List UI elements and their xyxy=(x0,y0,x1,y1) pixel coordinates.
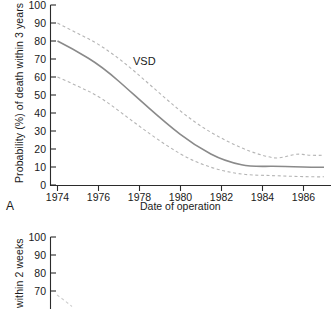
panel-b: 100 90 80 70 within 2 weeks xyxy=(0,232,333,309)
series-lower-ci-line xyxy=(58,77,325,177)
y-tick-label: 40 xyxy=(34,107,46,119)
y-tick-label: 20 xyxy=(34,143,46,155)
y-tick-label: 0 xyxy=(40,179,46,191)
x-axis-label-a: Date of operation xyxy=(140,200,221,212)
y-axis-label-a: Probability (%) of death within 3 years xyxy=(13,3,25,183)
y-axis-label-b: within 2 weeks xyxy=(13,238,25,308)
panel-a: 100 90 80 70 60 50 40 30 20 10 0 xyxy=(0,0,333,228)
y-tick-label: 100 xyxy=(28,232,46,243)
x-tick-label: 1976 xyxy=(87,191,111,203)
y-tick-label: 60 xyxy=(34,71,46,83)
series-annotation-vsd: VSD xyxy=(133,55,156,67)
series-main-line xyxy=(58,41,325,167)
data-series-group-a xyxy=(58,23,325,177)
data-series-group-b xyxy=(57,295,72,307)
y-tick-label: 10 xyxy=(34,161,46,173)
figure-container: 100 90 80 70 60 50 40 30 20 10 0 xyxy=(0,0,333,309)
y-tick-label: 80 xyxy=(34,267,46,279)
series-upper-ci-line xyxy=(58,23,325,158)
x-tick-label: 1974 xyxy=(46,191,70,203)
x-tick-label: 1984 xyxy=(251,191,275,203)
y-tick-label: 50 xyxy=(34,89,46,101)
y-tick-label: 70 xyxy=(34,285,46,297)
y-tick-label: 90 xyxy=(34,17,46,29)
y-tick-label: 30 xyxy=(34,125,46,137)
y-tick-label: 80 xyxy=(34,35,46,47)
y-ticks-a xyxy=(51,5,57,185)
y-tick-labels-a: 100 90 80 70 60 50 40 30 20 10 0 xyxy=(28,0,46,191)
x-tick-label: 1986 xyxy=(292,191,316,203)
y-ticks-b xyxy=(51,237,57,291)
series-upper-ci-line-b xyxy=(57,295,72,307)
panel-letter-a: A xyxy=(6,199,14,213)
y-tick-label: 90 xyxy=(34,249,46,261)
y-tick-label: 100 xyxy=(28,0,46,11)
y-tick-labels-b: 100 90 80 70 xyxy=(28,232,46,297)
panel-b-plot: 100 90 80 70 xyxy=(0,232,333,309)
y-tick-label: 70 xyxy=(34,53,46,65)
panel-a-plot: 100 90 80 70 60 50 40 30 20 10 0 xyxy=(0,0,333,228)
